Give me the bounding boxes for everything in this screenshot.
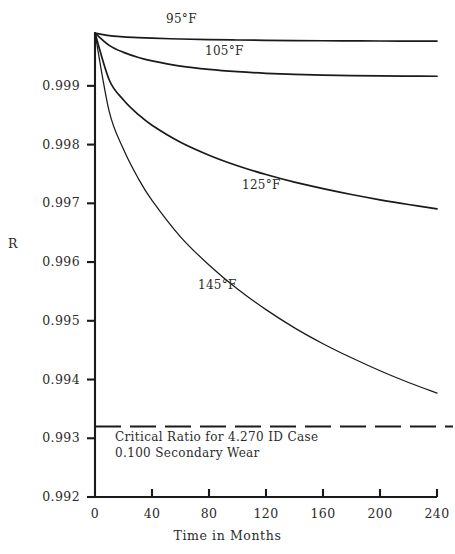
- x-tick-label: 80: [187, 506, 231, 521]
- y-axis-title: R: [8, 236, 18, 251]
- y-tick-label: 0.994: [8, 372, 80, 387]
- y-tick-marks: [87, 86, 95, 497]
- series-label-105f: 105°F: [205, 44, 244, 58]
- series-curve-105f: [95, 33, 437, 76]
- x-tick-label: 40: [130, 506, 174, 521]
- y-tick-label: 0.999: [8, 78, 80, 93]
- series-label-95f: 95°F: [166, 12, 197, 26]
- series-label-125f: 125°F: [242, 178, 281, 192]
- y-tick-label: 0.992: [8, 489, 80, 504]
- critical-ratio-annotation-line2: 0.100 Secondary Wear: [115, 446, 260, 460]
- x-tick-label: 200: [358, 506, 402, 521]
- series-curve-145f: [95, 33, 437, 393]
- series-curve-95f: [95, 33, 437, 41]
- x-tick-label: 160: [301, 506, 345, 521]
- x-tick-label: 0: [73, 506, 117, 521]
- x-tick-label: 120: [244, 506, 288, 521]
- series-label-145f: 145°F: [198, 278, 237, 292]
- chart-figure: 0.9920.9930.9940.9950.9960.9970.9980.999…: [0, 0, 455, 554]
- y-tick-label: 0.996: [8, 254, 80, 269]
- y-tick-label: 0.993: [8, 430, 80, 445]
- y-tick-label: 0.997: [8, 195, 80, 210]
- x-tick-label: 240: [415, 506, 455, 521]
- critical-ratio-annotation-line1: Critical Ratio for 4.270 ID Case: [115, 430, 318, 444]
- y-tick-label: 0.998: [8, 137, 80, 152]
- y-tick-label: 0.995: [8, 313, 80, 328]
- x-tick-marks: [152, 489, 437, 497]
- series-curves: [95, 33, 437, 393]
- x-axis-title: Time in Months: [0, 528, 455, 543]
